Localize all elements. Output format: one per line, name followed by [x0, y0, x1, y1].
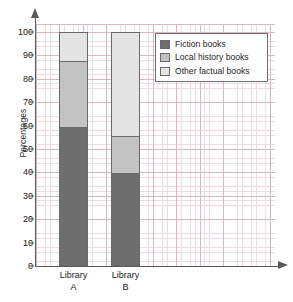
bar-segment — [112, 136, 139, 173]
y-axis-tick-mark — [29, 219, 34, 220]
legend-label: Other factual books — [175, 67, 250, 76]
stacked-bar — [111, 32, 140, 266]
x-axis-line — [35, 266, 280, 267]
legend-label: Local history books — [175, 53, 249, 62]
bar-segment — [60, 127, 87, 266]
y-axis-tick-mark — [29, 242, 34, 243]
y-axis-tick-mark — [29, 55, 34, 56]
y-axis-tick-mark — [29, 78, 34, 79]
legend-item: Local history books — [160, 52, 262, 64]
legend-swatch-other-factual-books — [160, 67, 170, 76]
stacked-bar — [59, 32, 88, 266]
y-axis-ticks: 0102030405060708090100 — [0, 0, 33, 302]
y-axis-arrow-icon — [31, 8, 39, 18]
y-axis-tick-mark — [29, 125, 34, 126]
legend-item: Fiction books — [160, 38, 262, 50]
bar-segment — [112, 173, 139, 266]
y-axis-tick-mark — [29, 149, 34, 150]
x-axis-category-label: LibraryB — [91, 270, 161, 293]
x-axis-category-label-line: Library — [91, 270, 161, 282]
chart-screenshot: Percentages 0102030405060708090100 Libra… — [0, 0, 293, 302]
y-axis-tick-mark — [29, 266, 34, 267]
x-axis-category-label-line: B — [91, 282, 161, 294]
bar-segment — [60, 33, 87, 61]
legend-swatch-fiction-books — [160, 40, 170, 49]
y-axis-tick-mark — [29, 102, 34, 103]
legend-swatch-local-history-books — [160, 53, 170, 62]
legend: Fiction books Local history books Other … — [155, 33, 268, 82]
x-axis-arrow-icon — [278, 261, 288, 269]
bar-segment — [112, 33, 139, 136]
legend-item: Other factual books — [160, 65, 262, 77]
y-axis-tick-mark — [29, 195, 34, 196]
y-axis-tick-mark — [29, 32, 34, 33]
y-axis-tick-mark — [29, 172, 34, 173]
bar-segment — [60, 61, 87, 127]
legend-label: Fiction books — [175, 40, 226, 49]
